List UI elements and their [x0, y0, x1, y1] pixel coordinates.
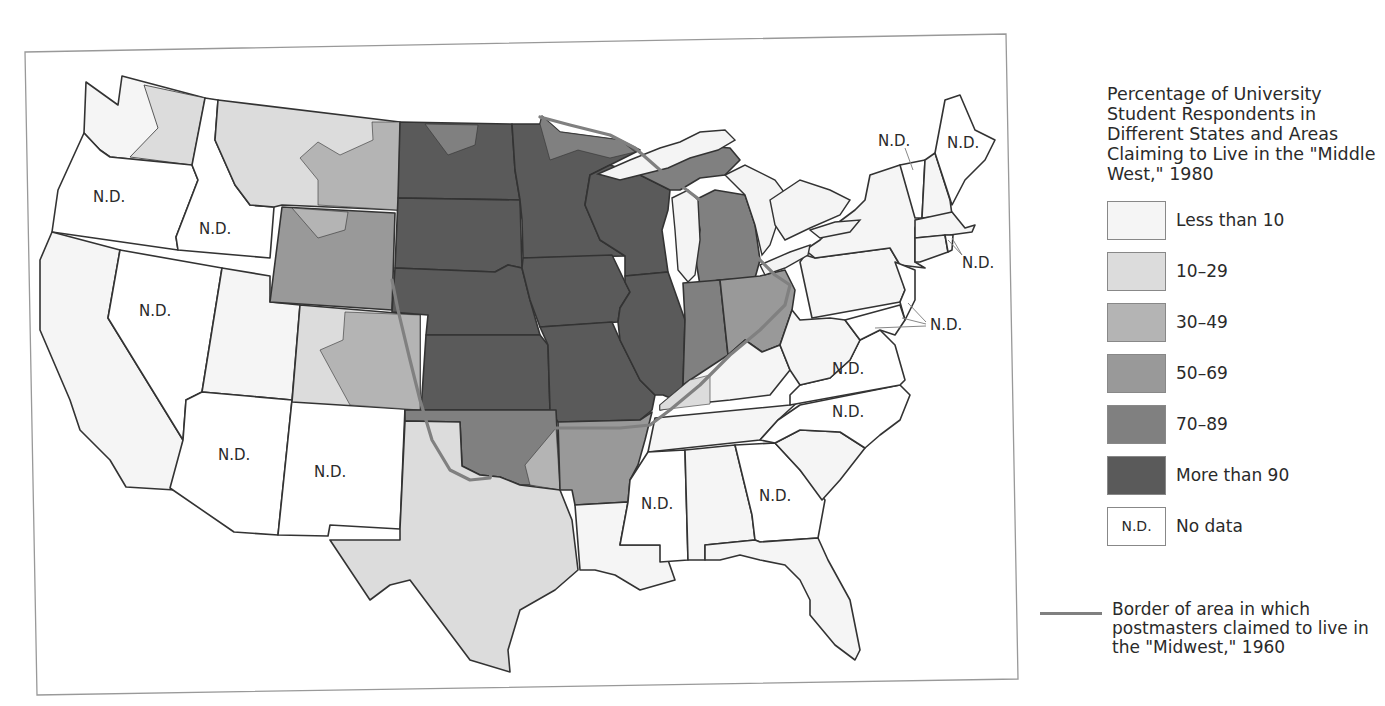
legend-swatch-nd: N.D. — [1107, 507, 1166, 546]
legend-label: No data — [1176, 516, 1243, 536]
legend-item-30-49: 30–49 — [1107, 300, 1385, 344]
nd-label-va: N.D. — [832, 360, 864, 378]
nd-label-nj-de-md: N.D. — [930, 316, 962, 334]
legend-label: 50–69 — [1176, 363, 1228, 383]
border-line-sample — [1040, 612, 1102, 615]
state-ks — [421, 335, 550, 410]
legend-item-more-than-90: More than 90 — [1107, 453, 1385, 497]
legend-item-70-89: 70–89 — [1107, 402, 1385, 446]
nd-label-ms: N.D. — [641, 495, 673, 513]
nd-label-nm: N.D. — [314, 463, 346, 481]
legend-swatch — [1107, 252, 1166, 291]
legend: Percentage of University Student Respond… — [1107, 84, 1385, 555]
legend-item-10-29: 10–29 — [1107, 249, 1385, 293]
legend-label: Less than 10 — [1176, 210, 1284, 230]
nd-label-id: N.D. — [199, 220, 231, 238]
border-line-label: Border of area in which postmasters clai… — [1112, 600, 1385, 657]
nd-label-nc: N.D. — [832, 403, 864, 421]
border-line-legend: Border of area in which postmasters clai… — [1040, 600, 1385, 657]
nd-label-me: N.D. — [947, 134, 979, 152]
legend-item-less-than-10: Less than 10 — [1107, 198, 1385, 242]
nd-label-ri: N.D. — [962, 254, 994, 272]
legend-swatch — [1107, 354, 1166, 393]
legend-label: 30–49 — [1176, 312, 1228, 332]
nd-label-vt: N.D. — [878, 132, 910, 150]
legend-label: 10–29 — [1176, 261, 1228, 281]
legend-item-50-69: 50–69 — [1107, 351, 1385, 395]
nd-label-ga: N.D. — [759, 487, 791, 505]
legend-item-no-data: N.D. No data — [1107, 504, 1385, 548]
legend-swatch — [1107, 456, 1166, 495]
legend-label: 70–89 — [1176, 414, 1228, 434]
nd-label-nv: N.D. — [139, 302, 171, 320]
legend-swatch — [1107, 303, 1166, 342]
legend-swatch — [1107, 405, 1166, 444]
legend-label: More than 90 — [1176, 465, 1289, 485]
nd-label-az: N.D. — [218, 446, 250, 464]
state-sd — [395, 198, 522, 272]
state-ia — [522, 255, 630, 327]
legend-title: Percentage of University Student Respond… — [1107, 84, 1385, 184]
nd-label-or: N.D. — [93, 188, 125, 206]
legend-swatch — [1107, 201, 1166, 240]
